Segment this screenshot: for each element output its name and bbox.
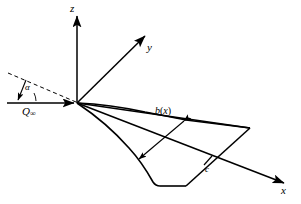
chord-marker-label: c xyxy=(205,165,209,174)
x-axis-line xyxy=(77,103,284,183)
wing-diagram-figure: z y x α c Q∞ b(x) xyxy=(0,0,301,204)
freestream-symbol: Q xyxy=(22,105,30,117)
span-function-label: b(x) xyxy=(155,106,171,116)
chord-reference-dashed-line xyxy=(8,73,76,102)
freestream-subscript: ∞ xyxy=(30,109,36,118)
freestream-group xyxy=(7,73,76,103)
leading-edge-lower-curve xyxy=(77,103,160,186)
diagram-canvas xyxy=(0,0,301,204)
span-dimension-group xyxy=(139,121,184,159)
axis-group xyxy=(77,16,284,183)
span-label-close-paren: ) xyxy=(168,105,171,116)
angle-of-attack-arc xyxy=(34,93,36,101)
wing-trailing-edge xyxy=(186,128,250,186)
y-axis-label: y xyxy=(147,42,152,53)
angle-of-attack-label: α xyxy=(25,83,30,92)
z-axis-label: z xyxy=(70,3,74,14)
freestream-velocity-label: Q∞ xyxy=(22,106,36,118)
x-axis-label: x xyxy=(281,185,286,196)
span-double-arrow xyxy=(139,121,184,159)
y-axis-line xyxy=(77,36,145,103)
